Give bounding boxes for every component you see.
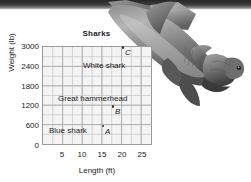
data-point-c[interactable] <box>122 46 125 49</box>
y-tick-1200: 1200 <box>5 102 39 110</box>
x-tick-25: 25 <box>130 150 154 159</box>
x-axis-ticks: 5 10 15 20 25 <box>42 150 152 162</box>
data-point-b-label: B <box>115 107 120 116</box>
y-tick-1800: 1800 <box>5 83 39 91</box>
annotation-great-hammerhead: Great hammerhead <box>58 94 127 103</box>
annotation-blue-shark: Blue shark <box>49 126 87 135</box>
y-tick-600: 600 <box>5 122 39 130</box>
y-axis-ticks: 3000 2400 1800 1200 600 0 <box>4 0 39 182</box>
data-point-a-label: A <box>105 127 110 136</box>
data-point-c-label: C <box>125 48 131 57</box>
y-tick-0: 0 <box>5 142 39 150</box>
y-tick-3000: 3000 <box>5 43 39 51</box>
annotation-white-shark: White shark <box>83 61 125 70</box>
y-tick-2400: 2400 <box>5 63 39 71</box>
chart-title: Sharks <box>40 29 153 38</box>
data-point-b[interactable] <box>112 105 115 108</box>
plot-area: White shark Great hammerhead Blue shark … <box>42 46 152 145</box>
shark-scatter-figure: Sharks Weight (lb) 3000 2400 1800 1200 6… <box>0 0 251 182</box>
x-axis-label: Length (ft) <box>42 166 152 175</box>
